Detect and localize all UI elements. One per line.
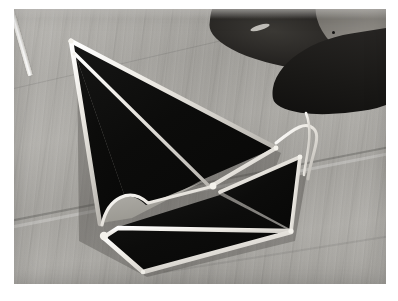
solder-joint bbox=[288, 228, 293, 233]
stained-glass-panel bbox=[14, 9, 386, 284]
loose-came-strip-right-tail bbox=[304, 113, 309, 175]
photograph bbox=[14, 9, 386, 284]
solder-joint bbox=[141, 270, 145, 274]
solder-joint bbox=[72, 52, 76, 56]
solder-joint bbox=[274, 146, 279, 151]
photo-frame bbox=[0, 0, 398, 301]
solder-joint bbox=[68, 38, 73, 43]
solder-joint bbox=[210, 183, 217, 190]
solder-joint bbox=[298, 155, 303, 160]
solder-joint bbox=[100, 232, 108, 240]
